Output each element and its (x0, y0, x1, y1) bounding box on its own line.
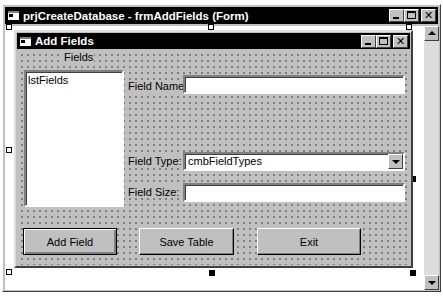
field-type-value: cmbFieldTypes (188, 155, 262, 167)
minimize-icon (365, 43, 371, 45)
minimize-icon (393, 17, 399, 19)
form-close-button[interactable]: ✕ (393, 35, 408, 48)
minimize-button[interactable] (389, 9, 404, 22)
vertical-scrollbar[interactable] (424, 26, 439, 290)
save-table-button[interactable]: Save Table (139, 228, 234, 255)
form-icon (8, 11, 19, 20)
resize-handle-left[interactable] (6, 147, 12, 153)
field-type-dropdown-button[interactable] (388, 154, 403, 169)
designer-window-controls: ✕ (389, 9, 436, 22)
arrow-up-icon (428, 31, 436, 35)
close-icon: ✕ (422, 10, 435, 21)
chevron-down-icon (392, 160, 400, 164)
field-name-label: Field Name: (128, 80, 187, 92)
resize-handle-top-left[interactable] (6, 24, 12, 30)
designer-title: prjCreateDatabase - frmAddFields (Form) (23, 10, 249, 22)
listbox-name: lstFields (28, 74, 68, 86)
designer-title-bar[interactable]: prjCreateDatabase - frmAddFields (Form) … (5, 7, 438, 24)
field-name-input[interactable] (183, 75, 405, 94)
fields-label: Fields (63, 51, 94, 63)
form-icon (20, 37, 31, 46)
form-client-area: Fields lstFields Field Name: Field Type:… (17, 50, 410, 265)
form-window-controls: ✕ (361, 35, 408, 48)
add-field-button[interactable]: Add Field (23, 228, 117, 255)
form-minimize-button[interactable] (361, 35, 376, 48)
resize-handle-bottom[interactable] (209, 270, 215, 276)
maximize-icon (407, 11, 416, 19)
scroll-up-button[interactable] (424, 26, 439, 41)
maximize-icon (379, 37, 388, 45)
close-icon: ✕ (394, 36, 407, 47)
scroll-down-button[interactable] (424, 275, 439, 290)
form-title-bar[interactable]: Add Fields ✕ (17, 33, 410, 49)
maximize-button[interactable] (404, 9, 419, 22)
exit-button[interactable]: Exit (257, 228, 361, 255)
field-type-label: Field Type: (128, 155, 182, 167)
add-fields-form: Add Fields ✕ Fields lstFields Field Name… (14, 30, 413, 268)
arrow-down-icon (428, 281, 436, 285)
resize-handle-bottom-left[interactable] (6, 269, 12, 275)
field-size-label: Field Size: (128, 186, 179, 198)
close-button[interactable]: ✕ (421, 9, 436, 22)
field-type-combo[interactable]: cmbFieldTypes (183, 152, 405, 171)
form-maximize-button[interactable] (376, 35, 391, 48)
fields-listbox[interactable]: lstFields (24, 70, 124, 207)
resize-handle-bottom-right[interactable] (410, 270, 416, 276)
form-title: Add Fields (35, 35, 94, 47)
field-size-input[interactable] (183, 183, 405, 202)
